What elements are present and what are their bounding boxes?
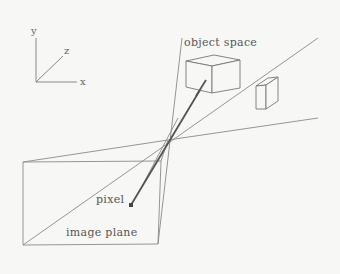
object-space-label: object space [184,37,257,48]
axis-triad [36,38,77,82]
axis-label-z: z [64,46,70,56]
frustum-line-diagonal [23,38,318,245]
axis-label-y: y [31,26,37,36]
pixel-dot [129,203,133,207]
pixel-ray [129,80,206,207]
cube-large-side [212,60,240,93]
ray-line [131,80,206,205]
z-axis-line [36,56,63,82]
axis-label-x: x [80,77,86,87]
box-small-front [256,85,266,109]
cube-large-front [186,61,212,93]
frustum-lines [23,38,318,245]
pixel-label: pixel [96,194,124,205]
box-small [256,77,278,109]
diagram-svg [0,0,340,274]
diagram-canvas: y z x object space pixel image plane [0,0,340,274]
cube-large [186,55,240,93]
image-plane-label: image plane [66,227,138,238]
frustum-line-lower-right [168,118,318,140]
